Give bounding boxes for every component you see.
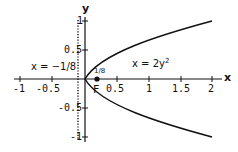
curve-equation-exponent: 2 xyxy=(165,57,169,65)
parabola-plot xyxy=(0,0,238,152)
focus-point xyxy=(94,76,99,81)
curve-equation-base: x = 2y xyxy=(132,58,165,69)
x-tick-label: -1 xyxy=(13,84,25,94)
x-tick-label: 0.5 xyxy=(106,84,124,94)
x-tick-label: 1 xyxy=(146,84,152,94)
y-axis-label: y xyxy=(82,3,89,14)
y-tick-label: -1 xyxy=(70,132,82,142)
curve-equation-label: x = 2y2 xyxy=(132,58,169,69)
y-tick-label: 1 xyxy=(77,16,83,26)
x-tick-label: -0.5 xyxy=(36,84,60,94)
x-axis-label: x xyxy=(224,72,231,83)
directrix-label: x = −1/8 xyxy=(31,62,76,72)
focus-value-label: 1/8 xyxy=(94,68,105,75)
y-tick-label: -0.5 xyxy=(58,103,82,113)
y-tick-label: 0.5 xyxy=(64,45,82,55)
focus-label: F xyxy=(93,84,99,95)
x-tick-label: 1.5 xyxy=(172,84,190,94)
x-tick-label: 2 xyxy=(208,84,214,94)
